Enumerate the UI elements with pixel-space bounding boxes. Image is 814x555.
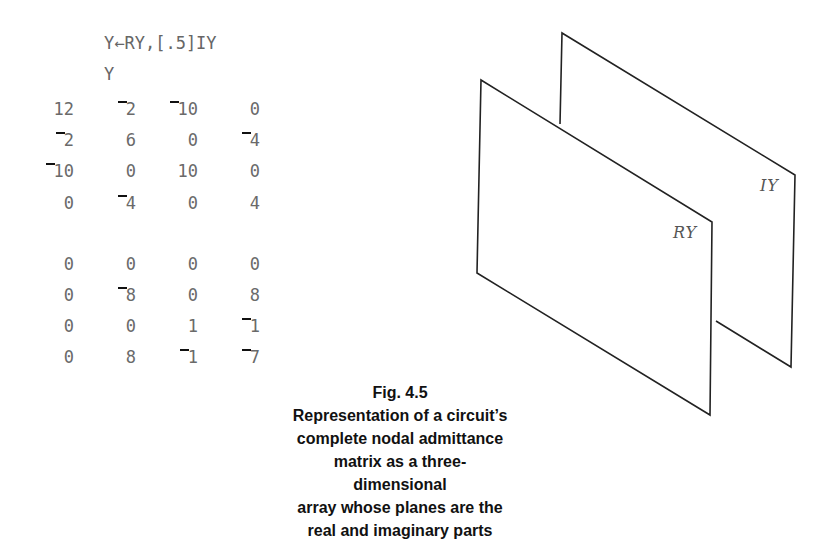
front-plane-label: RY: [672, 223, 698, 242]
caption-line: Representation of a circuit’s: [290, 404, 510, 427]
caption-line: array whose planes are the: [290, 496, 510, 519]
front-plane-ry: [477, 80, 712, 415]
back-plane-label: IY: [759, 176, 779, 195]
caption-line: complete nodal admittance: [290, 427, 510, 450]
figure-caption: Fig. 4.5 Representation of a circuit’s c…: [290, 381, 510, 542]
figure-number: Fig. 4.5: [290, 381, 510, 404]
caption-line: matrix as a three-dimensional: [290, 450, 510, 496]
caption-line: real and imaginary parts: [290, 519, 510, 542]
